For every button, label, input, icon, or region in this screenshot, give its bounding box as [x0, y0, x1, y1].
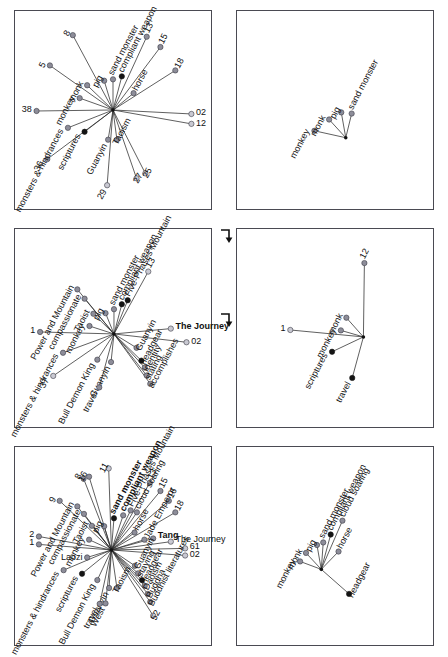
graph-node[interactable] [60, 350, 65, 355]
node-label: Tang [158, 530, 179, 540]
panel-middle-right: 12monkmonkey1scripturestravel [236, 228, 434, 428]
graph-node[interactable] [288, 327, 293, 332]
graph-node[interactable] [338, 328, 343, 333]
graph-node[interactable] [51, 373, 56, 378]
arrow-middle-to-bottom [218, 312, 232, 328]
node-label: 15 [156, 32, 169, 46]
graph-node[interactable] [104, 183, 109, 188]
graph-node[interactable] [173, 68, 178, 73]
graph-node[interactable] [86, 537, 91, 542]
edge [97, 550, 111, 580]
node-label: monk [285, 546, 304, 571]
graph-node[interactable] [158, 488, 163, 493]
node-label: monsters & hindrances [13, 127, 65, 214]
node-label: pig [90, 74, 104, 89]
graph-node[interactable] [336, 549, 341, 554]
graph-node[interactable] [108, 359, 113, 364]
node-label: sand monster [346, 58, 380, 111]
graph-node[interactable] [189, 111, 194, 116]
node-label: 1 [281, 323, 286, 333]
node-label: headgear [346, 561, 373, 600]
node-label: 02 [191, 336, 201, 346]
graph-node[interactable] [184, 340, 189, 345]
graph-node[interactable] [47, 63, 52, 68]
graph-node[interactable] [131, 90, 136, 95]
center-node [111, 108, 115, 112]
graph-node[interactable] [111, 516, 116, 521]
center-node [320, 568, 324, 572]
edge [85, 110, 113, 132]
graph-node[interactable] [82, 129, 87, 134]
node-label: 38 [22, 104, 32, 114]
graph-node[interactable] [321, 540, 326, 545]
graph-node[interactable] [65, 125, 70, 130]
panel-top-right: monkeymonkpigsand monster [236, 10, 434, 210]
node-label: 29 [95, 187, 108, 201]
graph-node[interactable] [350, 375, 355, 380]
graph-node[interactable] [36, 542, 41, 547]
graph-node[interactable] [36, 534, 41, 539]
panel-bottom-left-plot: 1181692113151618610252The JourneyPower a… [15, 447, 211, 645]
graph-node[interactable] [37, 329, 42, 334]
graph-node[interactable] [34, 108, 39, 113]
graph-node[interactable] [121, 513, 126, 518]
center-node [344, 136, 348, 140]
center-node [112, 332, 116, 336]
node-label: 02 [190, 549, 200, 559]
edge [346, 318, 363, 337]
panel-bottom-left: 1181692113151618610252The JourneyPower a… [14, 446, 212, 646]
node-label: 5 [37, 60, 48, 69]
node-label: 8 [61, 28, 72, 37]
node-label: Guanyin [85, 142, 110, 177]
graph-node[interactable] [328, 532, 333, 537]
node-label: Laozi [61, 552, 83, 562]
graph-node[interactable] [362, 260, 367, 265]
graph-node[interactable] [132, 530, 137, 535]
panel-top-right-plot: monkeymonkpigsand monster [237, 11, 433, 209]
graph-node[interactable] [103, 601, 108, 606]
panel-middle-left-plot: Power and MountaincompassionateTaoistmon… [15, 229, 211, 427]
edge [113, 93, 134, 110]
graph-node[interactable] [97, 385, 102, 390]
graph-node[interactable] [77, 95, 82, 100]
figure-canvas: 8131518538360212292725monkmonkeypigsand … [0, 0, 448, 657]
center-node [110, 548, 114, 552]
graph-node[interactable] [340, 518, 345, 523]
node-label: monk [309, 113, 328, 138]
graph-node[interactable] [111, 307, 116, 312]
graph-node[interactable] [125, 298, 130, 303]
node-label: travel [334, 380, 353, 404]
edge [346, 114, 352, 138]
node-label: 1 [30, 325, 35, 335]
graph-node[interactable] [119, 74, 124, 79]
graph-node[interactable] [87, 323, 92, 328]
edge [106, 313, 114, 334]
graph-node[interactable] [168, 326, 173, 331]
graph-node[interactable] [128, 508, 133, 513]
node-label: 12 [357, 247, 370, 261]
graph-node[interactable] [79, 571, 84, 576]
node-label: travel [81, 389, 100, 413]
panel-bottom-right: monkeymonkpigsand monstercompliant weapo… [236, 446, 434, 646]
edge [68, 110, 113, 128]
graph-node[interactable] [146, 269, 151, 274]
graph-node[interactable] [189, 121, 194, 126]
edge [87, 550, 111, 558]
panel-bottom-right-plot: monkeymonkpigsand monstercompliant weapo… [237, 447, 433, 645]
graph-node[interactable] [349, 111, 354, 116]
node-label: monsters & hindrances [9, 569, 61, 656]
edge [332, 337, 363, 352]
panel-middle-left: Power and MountaincompassionateTaoistmon… [14, 228, 212, 428]
node-label: scriptures [302, 351, 329, 391]
graph-node[interactable] [61, 567, 66, 572]
graph-node[interactable] [84, 555, 89, 560]
graph-node[interactable] [158, 44, 163, 49]
graph-node[interactable] [119, 302, 124, 307]
graph-node[interactable] [110, 77, 115, 82]
graph-node[interactable] [329, 349, 334, 354]
graph-node[interactable] [95, 577, 100, 582]
node-label: monsters & hindrances [8, 351, 60, 438]
edge [352, 337, 363, 378]
node-label: 52 [149, 608, 162, 622]
graph-node[interactable] [95, 357, 100, 362]
